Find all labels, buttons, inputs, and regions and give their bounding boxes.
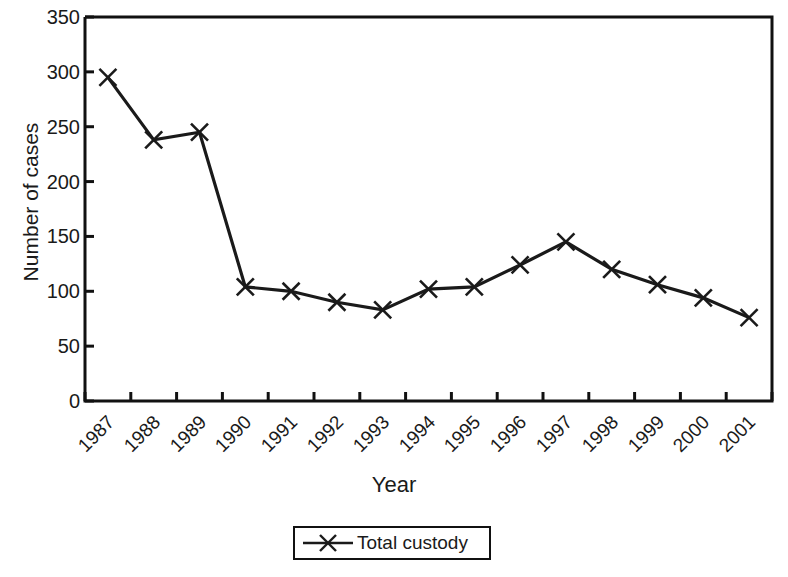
data-point-markers (99, 69, 757, 326)
y-tick-label: 100 (34, 281, 80, 301)
data-point-marker (99, 69, 116, 86)
data-point-marker (695, 289, 712, 306)
y-tick-label: 0 (34, 391, 80, 411)
data-point-marker (741, 309, 758, 326)
data-point-marker (603, 261, 620, 278)
data-point-marker (512, 256, 529, 273)
y-axis-tick-labels: 050100150200250300350 (12, 0, 80, 420)
y-tick-label: 50 (34, 336, 80, 356)
axis-frame (85, 17, 772, 401)
legend-marker-icon (301, 532, 355, 554)
y-tick-label: 300 (34, 62, 80, 82)
y-tick-label: 200 (34, 172, 80, 192)
y-tick-label: 250 (34, 117, 80, 137)
data-point-marker (649, 276, 666, 293)
legend-label: Total custody (357, 532, 468, 554)
x-axis-title: Year (0, 472, 788, 498)
y-tick-label: 150 (34, 226, 80, 246)
data-point-marker (557, 233, 574, 250)
y-tick-label: 350 (34, 7, 80, 27)
data-series-total-custody (99, 69, 757, 326)
line-chart: Number of cases 050100150200250300350 19… (0, 0, 788, 577)
chart-legend: Total custody (293, 526, 491, 560)
